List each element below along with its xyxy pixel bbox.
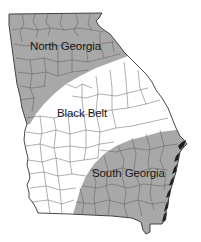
georgia-region-map: North Georgia Black Belt South Georgia: [0, 0, 201, 242]
label-black-belt: Black Belt: [57, 108, 107, 120]
label-north-georgia: North Georgia: [30, 41, 101, 53]
label-south-georgia: South Georgia: [92, 168, 165, 180]
map-svg: [0, 0, 201, 242]
